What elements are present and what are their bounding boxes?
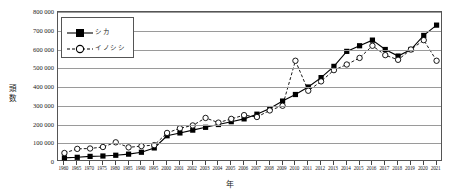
y-tick-label: 700 000 <box>10 26 54 33</box>
y-tick-label: 300 000 <box>10 101 54 108</box>
gridline <box>58 143 441 144</box>
gridline <box>58 68 441 69</box>
x-tick-label: 2001 <box>174 165 184 171</box>
x-tick-label: 2015 <box>354 165 364 171</box>
data-point <box>306 88 311 93</box>
data-point <box>75 155 80 160</box>
x-tick-label: 1980 <box>110 165 120 171</box>
x-tick-label: 2014 <box>341 165 351 171</box>
x-axis-title: 年 <box>0 178 459 189</box>
data-point <box>370 38 375 43</box>
x-tick-label: 2016 <box>367 165 377 171</box>
data-point <box>87 154 92 159</box>
data-point <box>177 126 182 131</box>
data-point <box>254 114 259 119</box>
x-tick-label: 2013 <box>328 165 338 171</box>
x-tick-label: 2019 <box>405 165 415 171</box>
x-tick-label: 1960 <box>59 165 69 171</box>
data-point <box>203 115 208 120</box>
data-point <box>267 108 272 113</box>
data-point <box>421 37 426 42</box>
x-tick-label: 2003 <box>200 165 210 171</box>
x-tick-label: 2002 <box>187 165 197 171</box>
y-tick-label: 100 000 <box>10 139 54 146</box>
y-tick-label: 600 000 <box>10 45 54 52</box>
x-tick-label: 2011 <box>303 165 312 171</box>
legend-label-shika: シカ <box>95 26 110 36</box>
data-point <box>383 52 388 57</box>
gridline <box>58 106 441 107</box>
x-tick-label: 2004 <box>213 165 223 171</box>
gridline <box>58 12 441 13</box>
x-tick-label: 1970 <box>84 165 94 171</box>
x-tick-label: 2008 <box>264 165 274 171</box>
x-tick-label: 1965 <box>71 165 81 171</box>
data-point <box>164 130 169 135</box>
x-tick-label: 2017 <box>379 165 389 171</box>
gridline <box>58 87 441 88</box>
x-tick-label: 2006 <box>238 165 248 171</box>
x-tick-label: 1990 <box>136 165 146 171</box>
data-point <box>139 150 144 155</box>
x-tick-label: 2018 <box>392 165 402 171</box>
x-tick-label: 2007 <box>251 165 261 171</box>
data-point <box>434 23 439 28</box>
data-point <box>318 79 323 84</box>
y-tick-label: 500 000 <box>10 64 54 71</box>
data-point <box>100 144 105 149</box>
y-tick-label: 200 000 <box>10 120 54 127</box>
x-tick-label: 1985 <box>123 165 133 171</box>
data-point <box>126 145 131 150</box>
legend-item-inoshishi: イノシシ <box>66 39 133 55</box>
data-point <box>229 116 234 121</box>
data-point <box>100 153 105 158</box>
chart-legend: シカ イノシシ <box>61 17 134 58</box>
data-point <box>113 153 118 158</box>
data-point <box>126 152 131 157</box>
data-point <box>293 92 298 97</box>
data-point <box>395 57 400 62</box>
data-point <box>75 146 80 151</box>
data-point <box>357 55 362 60</box>
x-tick-label: 1995 <box>148 165 158 171</box>
x-tick-label: 1975 <box>97 165 107 171</box>
legend-marker-filled-square-icon <box>66 25 94 37</box>
data-point <box>241 112 246 117</box>
data-point <box>370 43 375 48</box>
data-point <box>357 43 362 48</box>
legend-item-shika: シカ <box>66 23 133 39</box>
x-tick-label: 2021 <box>431 165 441 171</box>
x-tick-label: 2012 <box>315 165 325 171</box>
x-tick-label: 2000 <box>161 165 171 171</box>
y-tick-label: 800 000 <box>10 8 54 15</box>
data-point <box>293 58 298 63</box>
data-point <box>87 146 92 151</box>
y-tick-label: 400 000 <box>10 83 54 90</box>
x-tick-label: 2009 <box>277 165 287 171</box>
data-point <box>344 62 349 67</box>
x-axis-tick-labels: 1960196519701975198019851990199520002001… <box>0 165 459 177</box>
legend-label-inoshishi: イノシシ <box>95 42 125 52</box>
data-point <box>434 58 439 63</box>
gridline <box>58 125 441 126</box>
deer-boar-capture-chart: 頭数 0100 000200 000300 000400 000500 0006… <box>0 0 459 193</box>
x-tick-label: 2020 <box>418 165 428 171</box>
x-tick-label: 2005 <box>225 165 235 171</box>
x-tick-label: 2010 <box>290 165 300 171</box>
y-tick-label: 0 <box>10 158 54 165</box>
legend-marker-open-circle-icon <box>66 41 94 53</box>
data-point <box>62 150 67 155</box>
